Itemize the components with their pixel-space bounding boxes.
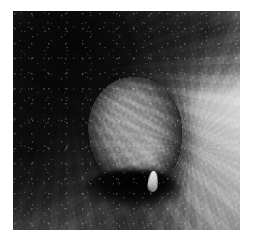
clinical-photograph — [13, 11, 240, 230]
caption — [0, 232, 254, 244]
inferior-shadow-crescent — [81, 169, 185, 213]
screenshot-root — [0, 0, 254, 244]
